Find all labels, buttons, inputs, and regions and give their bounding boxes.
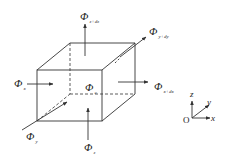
label-center-value: Φc <box>85 82 97 95</box>
label-flux-z-in: Φz <box>84 142 95 155</box>
label-flux-y-in: Φy <box>26 131 38 144</box>
label-flux-z-out: Φz+dz <box>80 11 99 24</box>
arrow-y-in <box>22 102 67 130</box>
label-flux-x-in: Φx <box>14 78 26 91</box>
label-flux-y-out: Φy+dy <box>149 26 169 39</box>
arrow-y-out <box>120 37 146 57</box>
label-flux-x-out: Φx+dx <box>154 81 174 94</box>
axis-label-x: x <box>211 114 215 123</box>
axis-label-z: z <box>190 90 194 99</box>
axis-origin-label: O <box>183 116 190 125</box>
axis-label-y: y <box>207 98 211 107</box>
